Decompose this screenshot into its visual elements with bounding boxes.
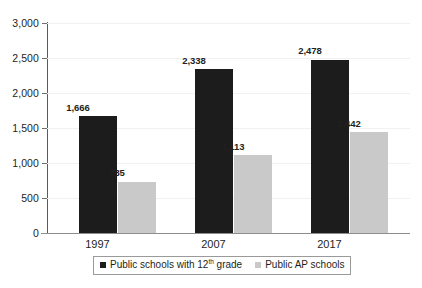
bar-2007-public-ap-schools xyxy=(234,155,272,233)
bar-value-label-2007-dark: 2,338 xyxy=(175,56,213,66)
legend-entry-public-schools-12th-grade: Public schools with 12th grade xyxy=(100,259,242,271)
y-tick-label-0: 0 xyxy=(0,228,39,239)
y-tick-label-1000: 1,000 xyxy=(0,158,39,169)
bar-value-label-2007-light: 1,113 xyxy=(214,142,252,152)
bar-value-label-2017-dark: 2,478 xyxy=(291,46,329,56)
y-tick-label-2000: 2,000 xyxy=(0,88,39,99)
bar-2017-public-ap-schools xyxy=(350,132,388,233)
bar-chart: 3,000 2,500 2,000 1,500 1,000 500 0 1,66… xyxy=(0,0,422,288)
x-axis-line xyxy=(41,233,410,234)
x-axis-label-2017: 2017 xyxy=(291,238,368,251)
legend-swatch-icon-light xyxy=(255,262,261,268)
legend-swatch-icon-dark xyxy=(100,262,106,268)
bar-2017-public-schools-12th-grade xyxy=(311,60,349,234)
gridline-3000 xyxy=(47,23,410,24)
y-tick-label-2500: 2,500 xyxy=(0,53,39,64)
y-tick-label-3000: 3,000 xyxy=(0,18,39,29)
x-axis-label-2007: 2007 xyxy=(175,238,252,251)
legend-entry-public-ap-schools: Public AP schools xyxy=(255,259,344,271)
bar-1997-public-ap-schools xyxy=(118,182,156,234)
y-tick-label-1500: 1,500 xyxy=(0,123,39,134)
legend-label-public-schools-12th-grade: Public schools with 12th grade xyxy=(110,259,242,271)
bar-value-label-1997-light: 735 xyxy=(98,168,136,178)
chart-legend: Public schools with 12th grade Public AP… xyxy=(93,256,351,275)
legend-label-suffix: grade xyxy=(214,259,242,270)
bar-value-label-2017-light: 1,442 xyxy=(330,119,368,129)
y-tick-label-500: 500 xyxy=(0,193,39,204)
legend-label-prefix: Public schools with 12 xyxy=(110,259,208,270)
x-axis-label-1997: 1997 xyxy=(59,238,136,251)
gridline-2500 xyxy=(47,58,410,59)
legend-label-public-ap-schools: Public AP schools xyxy=(265,259,344,271)
bar-value-label-1997-dark: 1,666 xyxy=(59,103,97,113)
